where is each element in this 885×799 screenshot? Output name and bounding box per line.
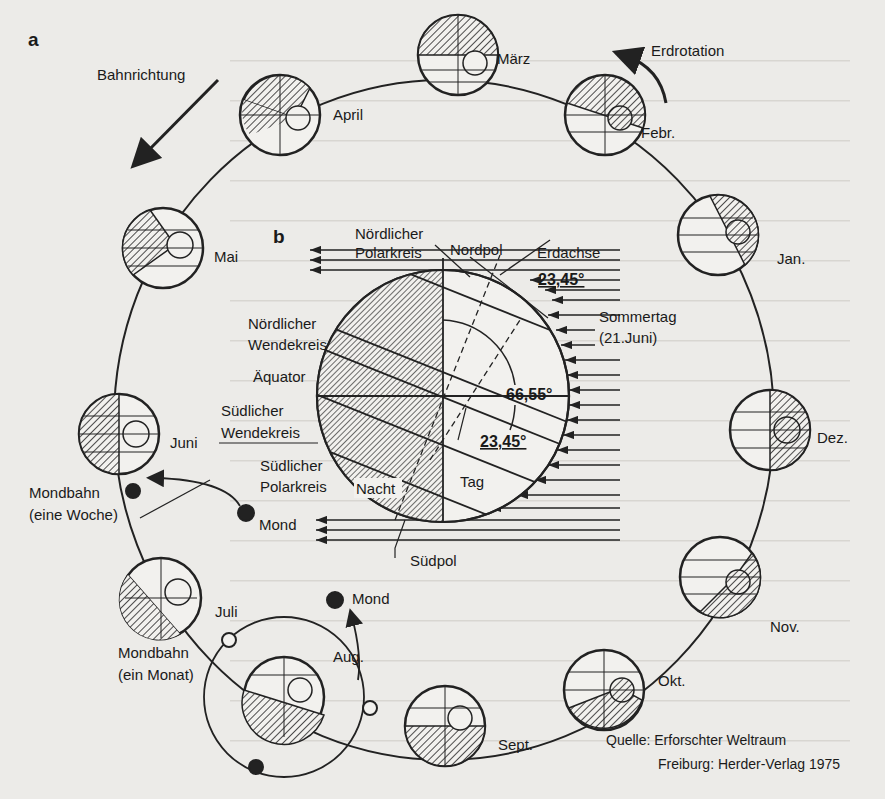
equator-label: Äquator xyxy=(253,368,306,385)
summer-day-label-2: (21.Juni) xyxy=(599,329,657,346)
antarctic-circle-label-1: Südlicher xyxy=(260,457,323,474)
globe-april xyxy=(240,75,320,155)
tropic-of-cancer-label-2: Wendekreis xyxy=(248,336,327,353)
month-label-dez: Dez. xyxy=(817,429,848,446)
month-label-okt: Okt. xyxy=(658,672,686,689)
month-label-juni: Juni xyxy=(170,434,198,451)
source-line-1: Quelle: Erforschter Weltraum xyxy=(606,732,786,748)
orbit-direction-label: Bahnrichtung xyxy=(97,66,185,83)
night-label: Nacht xyxy=(356,480,396,497)
source-line-2: Freiburg: Herder-Verlag 1975 xyxy=(658,756,840,772)
month-label-aug: Aug. xyxy=(333,648,364,665)
antarctic-circle-label-2: Polarkreis xyxy=(260,478,327,495)
globe-juli xyxy=(120,558,201,640)
orbit-direction-arrow-icon xyxy=(141,80,218,158)
globe-juni xyxy=(79,394,159,474)
day-label: Tag xyxy=(460,473,484,490)
north-pole-label: Nordpol xyxy=(450,241,503,258)
moon-phase-icon xyxy=(222,633,236,647)
moon-label-week: Mond xyxy=(259,516,297,533)
month-label-jan: Jan. xyxy=(777,250,805,267)
south-pole-leader xyxy=(395,520,405,558)
moon-phase-icon xyxy=(363,701,377,715)
globe-febr xyxy=(565,75,645,155)
globe-maerz xyxy=(418,15,498,95)
globe-okt xyxy=(564,650,644,730)
axial-tilt-angle-bottom: 23,45° xyxy=(480,433,526,450)
globe-aug xyxy=(242,657,324,744)
globe-sept xyxy=(405,686,485,766)
rotation-label: Erdrotation xyxy=(651,42,724,59)
moon-orbit-week-label-1: Mondbahn xyxy=(29,484,100,501)
tropic-of-capricorn-label-2: Wendekreis xyxy=(221,424,300,441)
moon-label-month: Mond xyxy=(352,590,390,607)
moon-orbit-week-label-2: (eine Woche) xyxy=(29,506,118,523)
globe-jan xyxy=(678,195,758,275)
month-label-sept: Sept. xyxy=(498,736,533,753)
moon-orbit-month-label-2: (ein Monat) xyxy=(118,666,194,683)
globe-dez xyxy=(730,390,810,470)
complement-angle: 66,55° xyxy=(506,386,552,403)
month-label-april: April xyxy=(333,106,363,123)
moon-phase-icon xyxy=(249,760,263,774)
tropic-of-cancer-label-1: Nördlicher xyxy=(248,315,316,332)
month-label-maerz: März xyxy=(497,50,530,67)
moon-icon xyxy=(327,592,343,608)
tropic-of-capricorn-label-1: Südlicher xyxy=(221,402,284,419)
moon-direction-arrow-icon xyxy=(155,478,240,506)
moon-orbit-week-pointer xyxy=(140,480,210,518)
panel-a-label: a xyxy=(28,29,39,50)
moon-icon xyxy=(238,505,254,521)
south-pole-label: Südpol xyxy=(410,552,457,569)
moon-icon xyxy=(126,484,140,498)
axial-tilt-angle-top: 23,45° xyxy=(538,271,584,288)
arctic-circle-label-1: Nördlicher xyxy=(355,225,423,242)
arctic-circle-label-2: Polarkreis xyxy=(355,244,422,261)
month-label-nov: Nov. xyxy=(770,618,800,635)
panel-b-label: b xyxy=(273,226,285,247)
month-label-febr: Febr. xyxy=(641,124,675,141)
moon-orbit-month-label-1: Mondbahn xyxy=(118,644,189,661)
earth-axis-label: Erdachse xyxy=(537,244,600,261)
month-label-juli: Juli xyxy=(215,603,238,620)
globe-nov xyxy=(680,537,761,618)
earth-orbit-seasons-diagram: a Bahnrichtung Erdrotation März Febr. Ja… xyxy=(0,0,885,799)
month-label-mai: Mai xyxy=(214,248,238,265)
globe-mai xyxy=(123,208,203,288)
summer-day-label-1: Sommertag xyxy=(599,308,677,325)
